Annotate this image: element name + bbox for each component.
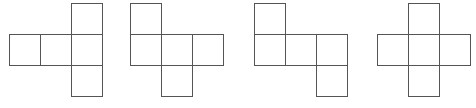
net-square [41,35,72,66]
net-square [72,35,103,66]
net-square [72,4,103,35]
cube-nets-diagram [0,0,476,108]
net-square [378,35,409,66]
net-square [131,35,162,66]
net-square [286,35,317,66]
net-square [440,35,471,66]
net-square [255,4,286,35]
net-square [409,66,440,97]
net-figure-1 [10,4,103,97]
net-square [409,35,440,66]
net-square [131,4,162,35]
net-square [317,35,348,66]
net-figure-4 [378,4,471,97]
net-square [409,4,440,35]
net-square [162,35,193,66]
net-square [193,35,224,66]
net-square [72,66,103,97]
net-square [317,66,348,97]
net-square [255,35,286,66]
net-figure-3 [255,4,348,97]
net-figure-2 [131,4,224,97]
net-square [162,66,193,97]
net-square [10,35,41,66]
